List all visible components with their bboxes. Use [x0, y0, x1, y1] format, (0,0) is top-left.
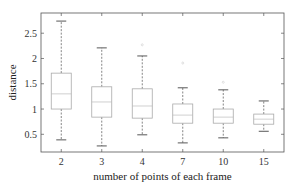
x-tick-label: 2 [59, 156, 64, 167]
y-tick-label: 1.5 [25, 78, 38, 89]
box-group-7 [173, 62, 193, 143]
x-tick-label: 10 [218, 156, 228, 167]
y-tick-label: 2.5 [25, 28, 38, 39]
x-tick-label: 3 [99, 156, 104, 167]
outlier-point [182, 62, 184, 64]
box-group-4 [132, 44, 152, 135]
box-group-15 [254, 101, 274, 131]
box-group-3 [92, 48, 112, 146]
outlier-point [222, 81, 224, 83]
y-tick-label: 1 [32, 104, 37, 115]
iqr-box [132, 89, 152, 118]
x-tick-label: 4 [140, 156, 145, 167]
plot-marks [51, 21, 274, 146]
box-group-2 [51, 21, 71, 140]
axes-frame [41, 13, 284, 152]
outlier-point [141, 44, 143, 46]
iqr-box [213, 109, 233, 123]
iqr-box [173, 104, 193, 123]
iqr-box [51, 73, 71, 109]
x-axis-ticks: 23471015 [59, 13, 269, 167]
box-group-10 [213, 81, 233, 138]
x-tick-label: 7 [180, 156, 185, 167]
y-axis-label: distance [6, 64, 18, 100]
x-axis-label: number of points of each frame [93, 170, 231, 182]
x-tick-label: 15 [259, 156, 269, 167]
box-plot-chart: 0.511.522.5 23471015 number of points of… [0, 0, 299, 190]
y-tick-label: 0.5 [25, 129, 38, 140]
y-tick-label: 2 [32, 53, 37, 64]
